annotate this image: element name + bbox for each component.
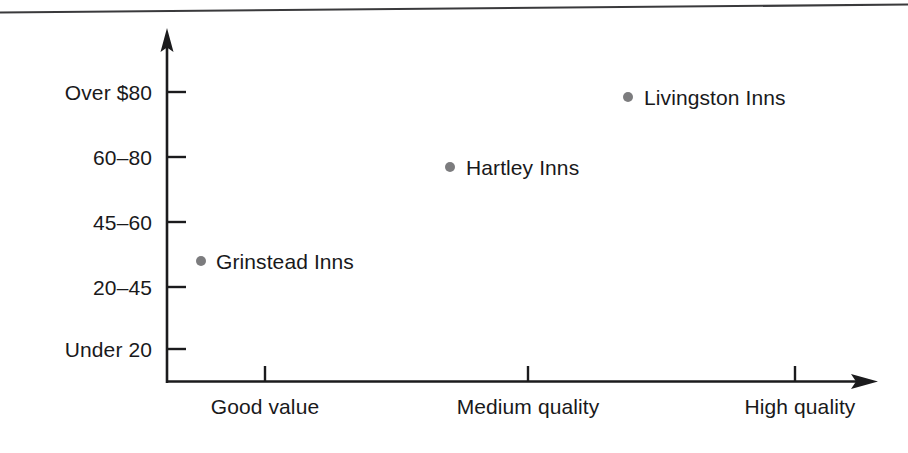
y-axis-label-60-80: 60–80 xyxy=(0,147,152,168)
y-axis-label-over-80: Over $80 xyxy=(0,82,152,103)
page-edge-rule xyxy=(0,5,908,13)
data-point-label-grinstead-inns: Grinstead Inns xyxy=(216,251,354,272)
data-point-marker-hartley-inns xyxy=(445,162,455,172)
positioning-map-figure: Over $80 60–80 45–60 20–45 Under 20 Good… xyxy=(0,0,908,453)
x-axis-label-medium-quality: Medium quality xyxy=(428,396,628,417)
data-point-label-hartley-inns: Hartley Inns xyxy=(466,157,579,178)
y-axis-label-20-45: 20–45 xyxy=(0,277,152,298)
data-point-label-livingston-inns: Livingston Inns xyxy=(644,87,786,108)
data-point-marker-grinstead-inns xyxy=(196,256,206,266)
x-axis-label-high-quality: High quality xyxy=(700,396,900,417)
y-axis-label-45-60: 45–60 xyxy=(0,212,152,233)
data-point-marker-livingston-inns xyxy=(623,92,633,102)
y-axis-label-under-20: Under 20 xyxy=(0,339,152,360)
x-axis-label-good-value: Good value xyxy=(165,396,365,417)
